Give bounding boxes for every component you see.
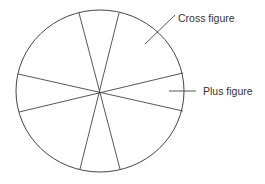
sector-line-2: [80, 13, 119, 169]
leader-lines: [145, 15, 196, 91]
outer-circle: [16, 10, 184, 172]
leader-line-cross: [145, 15, 175, 44]
circle-diagram: Cross figure Plus figure: [0, 0, 265, 184]
label-cross-figure: Cross figure: [178, 12, 235, 24]
label-plus-figure: Plus figure: [203, 85, 253, 97]
sector-line-4: [19, 73, 183, 112]
sector-lines: [18, 13, 183, 169]
